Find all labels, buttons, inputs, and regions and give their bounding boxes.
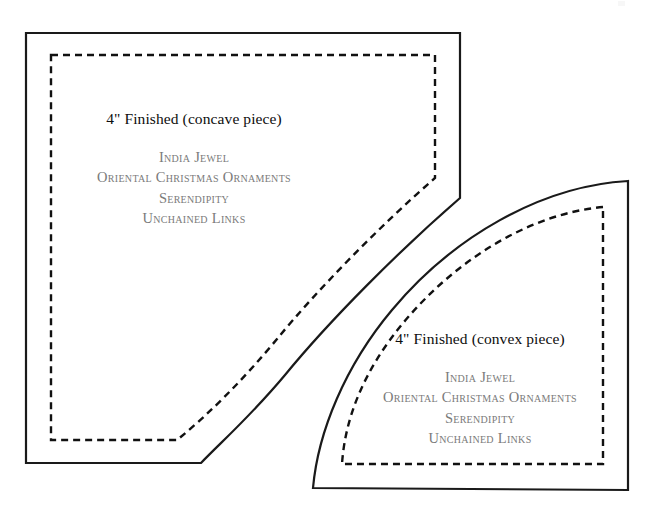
pattern-drawing <box>0 0 654 517</box>
pattern-sheet: 4" Finished (concave piece) India Jewel … <box>0 0 654 517</box>
page-scan-artifact <box>618 1 625 6</box>
